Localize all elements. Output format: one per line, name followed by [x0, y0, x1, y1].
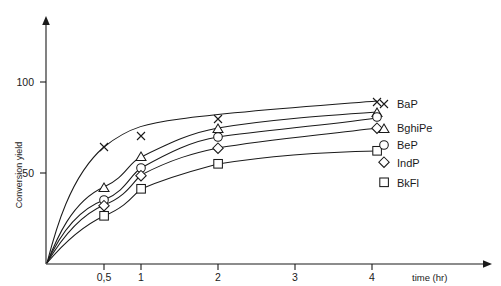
legend-item-bghipe: BghiPe	[379, 122, 432, 134]
legend: BaP BghiPe BeP IndP BkFl	[379, 98, 433, 189]
x-tick-label-2: 2	[215, 271, 221, 283]
legend-item-bep: BeP	[380, 139, 418, 151]
legend-marker-x-icon	[380, 100, 388, 108]
marker-triangle-bghipe-1	[136, 152, 146, 161]
legend-label-indp: IndP	[397, 157, 420, 169]
marker-circle-bep-4	[373, 113, 382, 122]
legend-marker-diamond-icon	[379, 157, 389, 167]
y-axis-title: Conversion yield	[14, 142, 24, 209]
x-tick-label-3: 3	[292, 271, 298, 283]
series-curves	[47, 101, 377, 263]
legend-label-bep: BeP	[397, 139, 418, 151]
marker-triangle-bghipe-0.5	[99, 183, 109, 192]
marker-x-bap-4	[373, 98, 381, 106]
marker-square-bkfl-1	[137, 185, 146, 194]
legend-marker-circle-icon	[380, 141, 389, 150]
marker-diamond-indp-2	[213, 143, 223, 153]
marker-x-bap-1	[137, 132, 145, 140]
marker-square-bkfl-0.5	[100, 212, 109, 221]
curve-bghipe	[47, 112, 377, 263]
marker-square-bkfl-2	[214, 160, 223, 169]
marker-x-bap-2	[214, 115, 222, 123]
y-axis-arrow-icon	[42, 16, 50, 25]
legend-label-bkfl: BkFl	[397, 177, 419, 189]
x-tick-label-0.5: 0,5	[97, 271, 112, 283]
curve-bkfl	[47, 151, 377, 263]
curve-indp	[47, 128, 377, 263]
curve-bap	[47, 101, 377, 263]
x-axis-caption: time (hr)	[412, 272, 447, 283]
legend-item-bkfl: BkFl	[380, 177, 419, 189]
chart-svg: 100 50 0,5 1 2 3 4 Conversion yield time…	[0, 0, 501, 286]
legend-label-bghipe: BghiPe	[397, 122, 432, 134]
marker-x-bap-0.5	[100, 143, 108, 151]
legend-item-bap: BaP	[380, 98, 418, 110]
x-tick-label-1: 1	[138, 271, 144, 283]
marker-circle-bep-2	[214, 133, 223, 142]
x-axis-arrow-icon	[483, 260, 492, 268]
x-tick-label-4: 4	[369, 271, 375, 283]
legend-item-indp: IndP	[379, 157, 420, 169]
y-tick-label-50: 50	[22, 167, 34, 179]
legend-label-bap: BaP	[397, 98, 418, 110]
y-tick-label-100: 100	[16, 76, 34, 88]
legend-marker-square-icon	[380, 178, 389, 187]
conversion-yield-chart: 100 50 0,5 1 2 3 4 Conversion yield time…	[0, 0, 501, 286]
